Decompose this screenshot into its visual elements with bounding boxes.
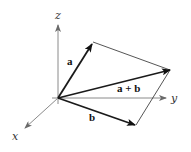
- vector-addition-diagram: z y x a a + b b: [0, 0, 191, 152]
- z-axis-label: z: [54, 9, 61, 22]
- parallelogram-edge-top: [93, 42, 170, 70]
- y-axis-label: y: [170, 92, 178, 105]
- x-axis-label: x: [12, 130, 19, 143]
- vector-b-label: b: [89, 111, 95, 123]
- vector-a-label: a: [67, 55, 73, 67]
- vector-a-plus-b-label: a + b: [117, 82, 140, 94]
- vector-a-plus-b: [58, 70, 170, 98]
- vector-b: [58, 98, 135, 125]
- x-axis: [25, 98, 58, 128]
